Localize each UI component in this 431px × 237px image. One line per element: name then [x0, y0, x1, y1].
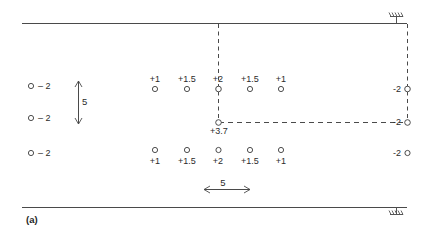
top-row-label-1: +1	[150, 75, 160, 84]
top-row-label-3: +2	[213, 75, 223, 84]
right-node-label-3: -2	[393, 149, 401, 158]
center-node-circle	[216, 120, 222, 126]
bottom-row-label-2: +1.5	[178, 157, 196, 166]
vertical-dimension-label: 5	[82, 97, 87, 107]
bottom-row-label-4: +1.5	[241, 157, 259, 166]
node-circle	[184, 147, 189, 152]
node-circle	[152, 86, 157, 91]
node-circle	[405, 86, 411, 92]
top-fixed-support-hatch-icon	[389, 13, 403, 24]
node-circle	[216, 86, 222, 92]
bottom-row-label-5: +1	[276, 157, 286, 166]
engineering-diagram-figure: – 2 – 2 – 2 5 +1 +1.5 +2 +1.5 +1 +3.7 +1…	[0, 0, 431, 237]
node-circle	[28, 150, 33, 155]
bottom-row-label-1: +1	[150, 157, 160, 166]
top-row-label-2: +1.5	[178, 75, 196, 84]
node-circle	[278, 86, 283, 91]
diagram-canvas	[0, 0, 431, 237]
node-circle	[184, 86, 189, 91]
left-node-label-1: – 2	[38, 82, 51, 91]
left-node-label-2: – 2	[38, 114, 51, 123]
node-circle	[28, 83, 33, 88]
node-circle	[405, 150, 410, 155]
node-circle	[216, 147, 221, 152]
left-node-label-3: – 2	[38, 149, 51, 158]
center-node-label: +3.7	[210, 127, 228, 136]
node-circle	[405, 120, 411, 126]
figure-caption: (a)	[26, 215, 38, 225]
horizontal-dimension-line	[204, 186, 250, 193]
top-row-label-4: +1.5	[241, 75, 259, 84]
node-circle	[247, 86, 252, 91]
horizontal-dimension-label: 5	[220, 178, 225, 188]
node-circle	[152, 147, 157, 152]
bottom-fixed-support-hatch-icon	[389, 208, 403, 215]
top-row-label-5: +1	[276, 75, 286, 84]
right-node-label-2: -2	[393, 118, 401, 127]
bottom-row-label-3: +2	[213, 157, 223, 166]
node-circle	[247, 147, 252, 152]
node-circle	[278, 147, 283, 152]
vertical-dimension-line	[75, 81, 82, 124]
node-circle	[28, 115, 33, 120]
right-node-label-1: -2	[393, 85, 401, 94]
